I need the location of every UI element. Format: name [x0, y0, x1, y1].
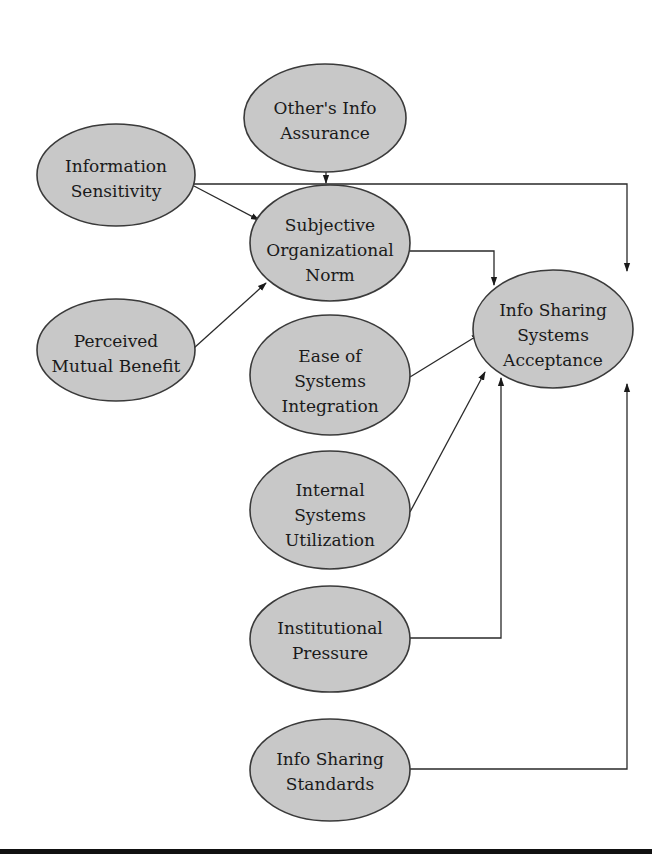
edge-benefit-to-norm	[194, 283, 266, 348]
edge-norm-to-acceptance	[410, 251, 494, 285]
bottom-rule-divider	[0, 849, 652, 854]
node-shape	[250, 586, 410, 692]
node-perceived-mutual-benefit: Perceived Mutual Benefit	[37, 299, 195, 401]
node-info-sharing-systems-acceptance: Info Sharing Systems Acceptance	[473, 270, 633, 388]
node-information-sensitivity: Information Sensitivity	[37, 124, 195, 226]
node-ease-of-systems-integration: Ease of Systems Integration	[250, 315, 410, 435]
edge-ease-to-acceptance	[410, 334, 480, 377]
node-info-sharing-standards: Info Sharing Standards	[250, 719, 410, 821]
node-label-line: Systems	[294, 371, 366, 391]
node-internal-systems-utilization: Internal Systems Utilization	[250, 451, 410, 569]
node-label-line: Pressure	[292, 643, 368, 663]
node-label-line: Acceptance	[502, 350, 603, 370]
node-label-line: Systems	[294, 505, 366, 525]
node-label-line: Information	[65, 156, 167, 176]
node-label-line: Mutual Benefit	[52, 356, 181, 376]
node-label-line: Organizational	[266, 240, 394, 260]
node-others-info-assurance: Other's Info Assurance	[244, 64, 406, 172]
edge-internal-to-acceptance	[410, 372, 485, 512]
node-label-line: Info Sharing	[499, 300, 607, 320]
edge-sensitivity-to-norm	[194, 186, 259, 220]
node-shape	[250, 719, 410, 821]
node-label-line: Norm	[305, 265, 354, 285]
node-label-line: Perceived	[74, 331, 159, 351]
node-label-line: Subjective	[285, 215, 375, 235]
node-label-line: Standards	[286, 774, 374, 794]
node-label-line: Info Sharing	[276, 749, 384, 769]
node-label-line: Integration	[281, 396, 378, 416]
path-diagram: Other's Info Assurance Information Sensi…	[0, 0, 652, 859]
node-label-line: Other's Info	[274, 98, 377, 118]
edge-pressure-to-acceptance	[410, 378, 501, 638]
node-label-line: Internal	[295, 480, 364, 500]
node-label-line: Ease of	[298, 346, 363, 366]
edge-standards-to-acceptance	[410, 384, 627, 769]
node-label-line: Sensitivity	[71, 181, 162, 201]
node-shape	[244, 64, 406, 172]
node-label-line: Systems	[517, 325, 589, 345]
node-label-line: Institutional	[277, 618, 382, 638]
node-subjective-organizational-norm: Subjective Organizational Norm	[250, 185, 410, 301]
node-label-line: Utilization	[285, 530, 375, 550]
node-label-line: Assurance	[279, 123, 369, 143]
node-institutional-pressure: Institutional Pressure	[250, 586, 410, 692]
